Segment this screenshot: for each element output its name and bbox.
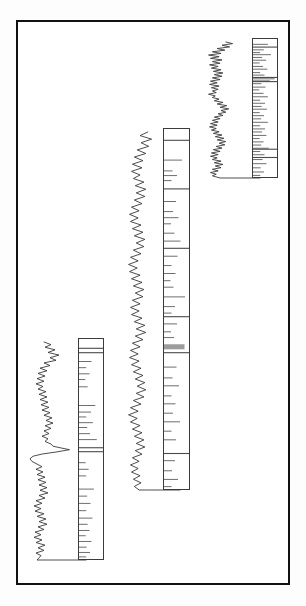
lithology-column — [252, 38, 278, 178]
log-curve-track — [22, 342, 74, 564]
log-curve-track — [118, 132, 168, 494]
lithology-column — [78, 338, 104, 560]
log-curve-track — [198, 42, 248, 182]
log-curve-path — [198, 42, 248, 182]
log-curve-path — [22, 342, 74, 564]
log-curve-path — [118, 132, 168, 494]
lithology-marks — [253, 39, 277, 177]
lithology-column — [163, 128, 190, 490]
lithology-marks — [164, 129, 189, 489]
lithology-marks — [79, 339, 103, 559]
figure-canvas — [0, 0, 306, 606]
